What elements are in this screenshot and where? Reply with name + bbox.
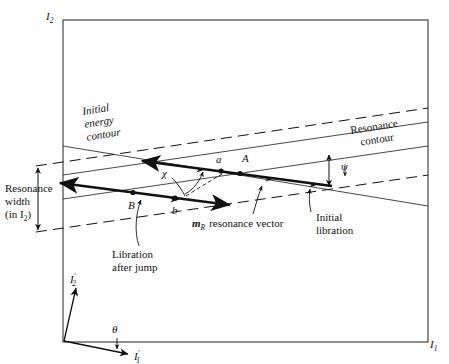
rx-sub: 1 xyxy=(136,356,140,364)
y-axis-sub: 2 xyxy=(50,16,54,25)
callout-leaders xyxy=(136,186,311,246)
rw-line-3: (in I2) xyxy=(5,208,31,223)
theta-angle-label: θ xyxy=(112,323,118,335)
rw-tail: ) xyxy=(27,208,31,221)
rw-line-1: Resonance xyxy=(5,182,53,194)
rw-line-2: width xyxy=(5,195,31,207)
point-label-b: b xyxy=(172,204,178,216)
laj-line-1: Libration xyxy=(112,248,153,260)
x-axis-sub: 1 xyxy=(434,344,438,353)
rv-text: resonance vector xyxy=(209,217,284,229)
rotated-axes xyxy=(64,288,128,354)
point-label-A: A xyxy=(241,152,249,164)
rotated-x-axis-label: I′1 xyxy=(133,349,140,364)
point-label-B: B xyxy=(128,199,135,211)
libration-after-jump-label: Libration after jump xyxy=(112,248,158,273)
point-label-a: a xyxy=(216,153,222,165)
psi-angle-label: ψ xyxy=(341,160,348,172)
il-line-2: libration xyxy=(316,224,354,236)
svg-text:mRresonance vector: mRresonance vector xyxy=(192,217,284,232)
plot-frame xyxy=(63,20,428,342)
chi-angle-label: χ xyxy=(161,167,168,179)
initial-libration-label: Initial libration xyxy=(316,211,354,236)
resonance-contour-label: Resonance contour xyxy=(349,117,400,149)
laj-line-2: after jump xyxy=(112,261,158,273)
resonance-vector-label: mRresonance vector xyxy=(192,217,284,232)
libration-trajectories xyxy=(60,161,332,205)
rotated-y-axis-label: I′2 xyxy=(69,272,76,288)
initial-energy-contour-label: Initial energy contour xyxy=(80,100,121,143)
x-axis-label: I1 xyxy=(429,338,437,353)
y-axis-label: I2 xyxy=(45,10,54,25)
resonance-diagram: a A B b χ ψ Initial energy contour Reson… xyxy=(0,0,449,364)
il-line-1: Initial xyxy=(316,211,342,223)
resonance-width-label: Resonance width (in I2) xyxy=(5,182,53,223)
rv-sub: R xyxy=(200,223,206,232)
chi-angle-marker xyxy=(172,172,222,196)
ry-sub: 2 xyxy=(72,279,76,288)
rw-line-3-text: (in I xyxy=(5,208,24,221)
